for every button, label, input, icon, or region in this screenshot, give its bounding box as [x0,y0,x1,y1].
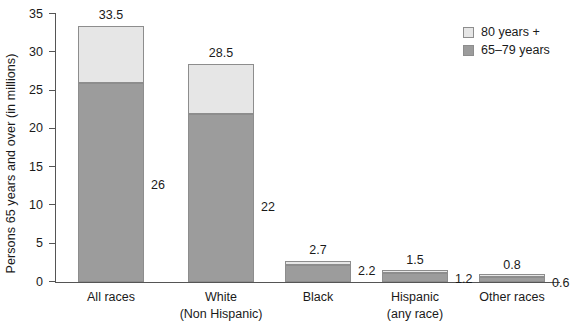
y-axis-tick-label: 20 [29,121,43,135]
category-label-line: Black [303,289,334,306]
bar-segment-80-plus[interactable] [78,26,144,83]
y-axis-tick-mark [49,243,56,244]
legend-label: 80 years + [481,25,540,39]
bar-total-label: 0.8 [503,258,520,272]
y-axis-tick: 20 [49,128,56,129]
bar-segment-80-plus[interactable] [479,274,545,277]
bar-segment-65-79[interactable] [188,114,254,282]
x-axis-line [55,282,560,283]
bar-segment-label: 1.2 [455,272,472,286]
y-axis-tick: 5 [49,243,56,244]
y-axis-tick: 25 [49,90,56,91]
category-label-line: Hispanic [387,289,443,306]
x-axis-category-label: White(Non Hispanic) [180,289,263,323]
y-axis-tick-label: 10 [29,198,43,212]
bar-total-label: 28.5 [209,46,233,60]
y-axis-tick-mark [49,90,56,91]
y-axis-tick-mark [49,166,56,167]
y-axis-tick-label: 35 [29,7,43,21]
bar-segment-65-79[interactable] [78,83,144,282]
category-label-line: All races [87,289,135,306]
bar-segment-65-79[interactable] [382,273,448,282]
bar-total-label: 2.7 [309,243,326,257]
legend-item[interactable]: 65–79 years [463,41,550,59]
bar-segment-80-plus[interactable] [285,261,351,265]
bar-segment-label: 0.6 [552,276,569,290]
legend-swatch [463,45,474,56]
x-axis-category-label: Black [303,289,334,306]
x-axis-category-label: Hispanic(any race) [387,289,443,323]
category-label-line: White [180,289,263,306]
legend-swatch [463,27,474,38]
y-axis-title: Persons 65 years and over (in millions) [0,0,22,327]
y-axis-tick-mark [49,128,56,129]
y-axis-tick-label: 15 [29,160,43,174]
y-axis-tick-label: 30 [29,45,43,59]
category-label-line: (any race) [387,306,443,323]
legend-label: 65–79 years [481,43,550,57]
bar-group[interactable] [382,271,448,282]
bar-total-label: 33.5 [99,8,123,22]
bar-segment-65-79[interactable] [479,277,545,282]
y-axis-tick-mark [49,13,56,14]
y-axis-tick: 15 [49,166,56,167]
bar-total-label: 1.5 [406,253,423,267]
category-label-line: Other races [479,289,544,306]
y-axis-tick: 30 [49,51,56,52]
bar-segment-label: 22 [261,200,275,214]
bar-group[interactable] [78,26,144,283]
bar-segment-label: 26 [151,178,165,192]
y-axis-tick-label: 0 [36,275,43,289]
y-axis-tick-label: 25 [29,83,43,97]
bar-group[interactable] [188,64,254,282]
y-axis-tick-mark [49,204,56,205]
y-axis-tick: 10 [49,204,56,205]
bar-segment-label: 2.2 [358,264,375,278]
bar-segment-65-79[interactable] [285,265,351,282]
stacked-bar-chart: Persons 65 years and over (in millions) … [0,0,570,327]
legend-item[interactable]: 80 years + [463,23,550,41]
chart-legend: 80 years +65–79 years [463,23,550,59]
y-axis-tick-mark [49,281,56,282]
category-label-line: (Non Hispanic) [180,306,263,323]
x-axis-category-label: Other races [479,289,544,306]
bar-group[interactable] [285,261,351,282]
y-axis-tick: 35 [49,13,56,14]
bar-group[interactable] [479,276,545,282]
bar-segment-80-plus[interactable] [382,270,448,273]
bar-segment-80-plus[interactable] [188,64,254,114]
y-axis-tick-label: 5 [36,236,43,250]
y-axis-tick: 0 [49,281,56,282]
y-axis-tick-mark [49,51,56,52]
x-axis-category-label: All races [87,289,135,306]
